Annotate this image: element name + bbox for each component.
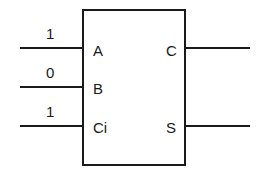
input-value-ci: 1 [46, 104, 54, 119]
pin-label-b: B [93, 81, 103, 96]
pin-label-a: A [93, 43, 103, 58]
input-value-b: 0 [46, 65, 54, 80]
pin-label-c: C [166, 43, 177, 58]
input-value-a: 1 [46, 26, 54, 41]
pin-label-ci: Ci [93, 120, 107, 135]
pin-label-s: S [166, 120, 176, 135]
adder-diagram [0, 0, 259, 172]
